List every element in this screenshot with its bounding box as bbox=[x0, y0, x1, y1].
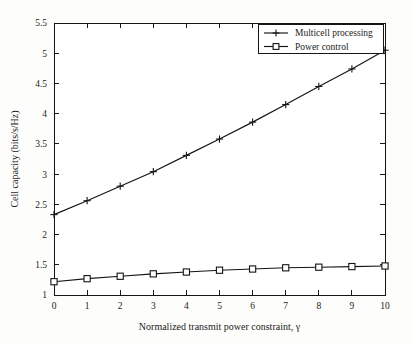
x-tick-label: 10 bbox=[380, 301, 390, 311]
x-axis-label: Normalized transmit power constraint, γ bbox=[139, 321, 301, 332]
x-tick-label: 6 bbox=[250, 301, 255, 311]
x-tick-label: 5 bbox=[217, 301, 222, 311]
y-tick-label: 3 bbox=[42, 170, 47, 180]
y-tick-label: 4.5 bbox=[35, 79, 47, 89]
x-tick-label: 1 bbox=[85, 301, 90, 311]
x-tick-label: 3 bbox=[151, 301, 156, 311]
y-tick-label: 5.5 bbox=[35, 18, 47, 28]
legend-label: Power control bbox=[295, 42, 349, 52]
plot-background bbox=[54, 23, 385, 295]
square-marker-icon bbox=[273, 44, 279, 50]
y-tick-label: 5 bbox=[42, 49, 47, 59]
x-tick-label: 2 bbox=[118, 301, 123, 311]
y-tick-label: 1.5 bbox=[35, 260, 47, 270]
chart-svg: 11.522.533.544.555.5 012345678910 Multic… bbox=[0, 0, 412, 344]
x-tick-label: 0 bbox=[52, 301, 57, 311]
x-tick-label: 8 bbox=[316, 301, 321, 311]
y-tick-label: 1 bbox=[42, 290, 47, 300]
x-tick-label: 7 bbox=[283, 301, 288, 311]
y-tick-label: 2.5 bbox=[35, 200, 47, 210]
y-axis-label: Cell capacity (bits/s/Hz) bbox=[9, 110, 21, 207]
figure-container: 11.522.533.544.555.5 012345678910 Multic… bbox=[0, 0, 412, 344]
x-tick-label: 9 bbox=[350, 301, 355, 311]
y-tick-label: 2 bbox=[42, 230, 47, 240]
y-tick-label: 4 bbox=[42, 109, 47, 119]
x-tick-label: 4 bbox=[184, 301, 189, 311]
y-tick-label: 3.5 bbox=[35, 139, 47, 149]
legend-label: Multicell processing bbox=[295, 28, 373, 38]
chart-legend: Multicell processingPower control bbox=[258, 24, 383, 53]
